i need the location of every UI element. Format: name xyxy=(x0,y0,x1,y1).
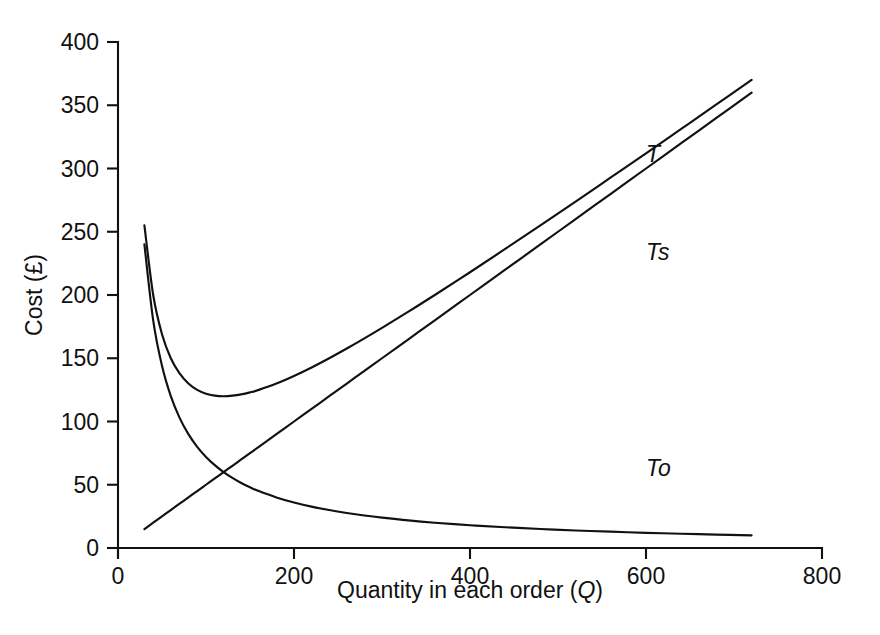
x-tick-label-0: 0 xyxy=(112,563,125,589)
chart-container: 050100150200250300350400 0200400600800 T… xyxy=(0,0,880,635)
x-tick-label-600: 600 xyxy=(627,563,665,589)
x-axis-title: Quantity in each order (Q) xyxy=(337,577,603,603)
y-tick-label-350: 350 xyxy=(61,92,99,118)
y-axis-title: Cost (£) xyxy=(21,254,47,336)
y-tick-label-250: 250 xyxy=(61,219,99,245)
series-label-ts: Ts xyxy=(646,239,670,265)
y-tick-label-300: 300 xyxy=(61,156,99,182)
y-tick-label-400: 400 xyxy=(61,29,99,55)
series-label-to: To xyxy=(646,455,671,481)
y-axis-tick-labels: 050100150200250300350400 xyxy=(61,29,99,561)
y-tick-label-100: 100 xyxy=(61,409,99,435)
y-tick-label-200: 200 xyxy=(61,282,99,308)
y-tick-label-0: 0 xyxy=(86,535,99,561)
y-axis-ticks xyxy=(107,42,118,548)
y-tick-label-150: 150 xyxy=(61,345,99,371)
series-label-t: T xyxy=(646,141,662,167)
x-axis-ticks xyxy=(118,548,822,559)
cost-curves-plot: 050100150200250300350400 0200400600800 T… xyxy=(0,0,880,635)
y-tick-label-50: 50 xyxy=(73,472,99,498)
x-tick-label-200: 200 xyxy=(275,563,313,589)
series-labels-group: TTsTo xyxy=(646,141,671,481)
series-line-to xyxy=(144,244,751,535)
x-tick-label-800: 800 xyxy=(803,563,841,589)
